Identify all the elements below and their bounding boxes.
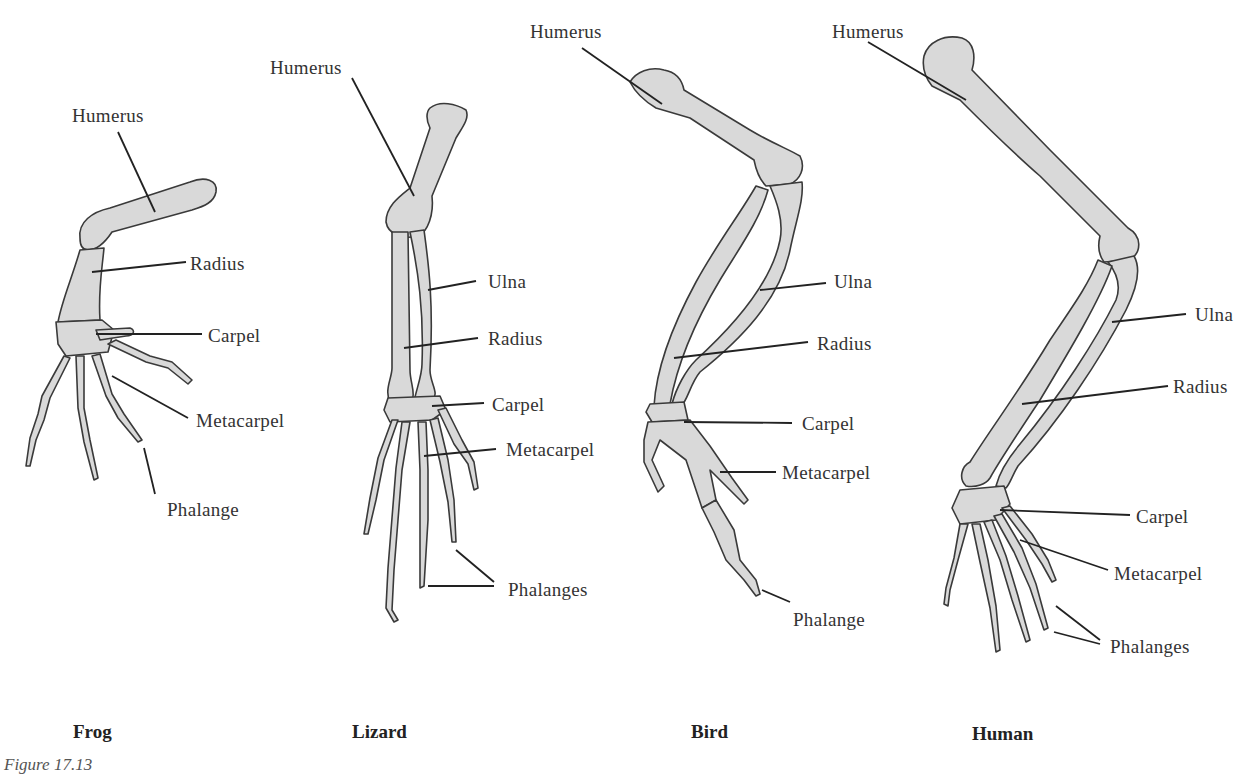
lizard-humerus-leader bbox=[352, 78, 414, 196]
figure-caption: Figure 17.13 bbox=[4, 756, 92, 773]
human-carpel-leader bbox=[1000, 510, 1130, 515]
frog-digit-4 bbox=[108, 340, 192, 384]
lizard-humerus-label: Humerus bbox=[270, 58, 342, 77]
bird-radius-label: Radius bbox=[817, 334, 872, 353]
bird-metacarpel-label: Metacarpel bbox=[782, 463, 870, 482]
human-metacarpel-leader bbox=[1020, 540, 1108, 570]
human-ulna-label: Ulna bbox=[1195, 305, 1233, 324]
human-metacarpel-label: Metacarpel bbox=[1114, 564, 1202, 583]
frog-humerus bbox=[80, 179, 216, 250]
bird-radius-leader bbox=[674, 342, 808, 358]
bird-radius bbox=[654, 186, 768, 406]
frog-animal-name: Frog bbox=[73, 722, 112, 741]
frog-metacarpel-label: Metacarpel bbox=[196, 411, 284, 430]
bird-forelimb bbox=[630, 69, 802, 596]
frog-digit-1 bbox=[26, 356, 70, 466]
frog-radioulna bbox=[58, 248, 104, 322]
frog-radius-leader bbox=[92, 262, 186, 272]
lizard-animal-name: Lizard bbox=[352, 722, 407, 741]
lizard-phalanges-leader-1 bbox=[456, 550, 494, 582]
frog-digit-2 bbox=[76, 356, 98, 480]
frog-radius-label: Radius bbox=[190, 254, 245, 273]
bird-phalange-leader bbox=[762, 590, 790, 602]
lizard-digit-2 bbox=[386, 422, 410, 622]
lizard-ulna-leader bbox=[428, 281, 476, 290]
human-carpel-label: Carpel bbox=[1136, 507, 1188, 526]
human-ulna bbox=[996, 256, 1138, 488]
human-humerus-label: Humerus bbox=[832, 22, 904, 41]
lizard-ulna-label: Ulna bbox=[488, 272, 526, 291]
frog-phalange-leader bbox=[144, 448, 155, 494]
frog-digit-3 bbox=[92, 354, 142, 442]
human-forelimb bbox=[923, 37, 1138, 652]
lizard-metacarpel-label: Metacarpel bbox=[506, 440, 594, 459]
bird-phalange-label: Phalange bbox=[793, 610, 865, 629]
lizard-radius-label: Radius bbox=[488, 329, 543, 348]
human-radius-label: Radius bbox=[1173, 377, 1228, 396]
bird-phalange bbox=[702, 500, 760, 596]
lizard-digit-3 bbox=[418, 422, 428, 588]
bird-ulna-label: Ulna bbox=[834, 272, 872, 291]
frog-carpel-label: Carpel bbox=[208, 326, 260, 345]
frog-forelimb bbox=[26, 179, 216, 480]
bird-humerus-label: Humerus bbox=[530, 22, 602, 41]
bird-carpometacarpus bbox=[644, 420, 748, 508]
bird-carpel-leader bbox=[684, 422, 792, 423]
lizard-phalanges-label: Phalanges bbox=[508, 580, 588, 599]
lizard-carpel-label: Carpel bbox=[492, 395, 544, 414]
frog-humerus-label: Humerus bbox=[72, 106, 144, 125]
lizard-humerus bbox=[386, 104, 467, 238]
bird-animal-name: Bird bbox=[691, 722, 728, 741]
lizard-radius-leader bbox=[404, 338, 478, 348]
human-phalanges-label: Phalanges bbox=[1110, 637, 1190, 656]
frog-phalange-label: Phalange bbox=[167, 500, 239, 519]
human-digit-1 bbox=[944, 524, 968, 606]
bird-carpel-label: Carpel bbox=[802, 414, 854, 433]
human-humerus bbox=[923, 37, 1138, 262]
bird-carpals bbox=[646, 402, 688, 422]
bird-humerus bbox=[630, 69, 802, 186]
human-animal-name: Human bbox=[972, 724, 1033, 743]
lizard-ulna bbox=[410, 230, 435, 402]
lizard-forelimb bbox=[364, 104, 478, 622]
lizard-radius bbox=[388, 232, 414, 402]
